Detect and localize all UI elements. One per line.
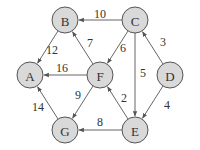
- edge-C-F: 6: [108, 31, 129, 63]
- node-G: G: [52, 117, 78, 143]
- node-label: G: [60, 124, 69, 139]
- edge-weight-label: 4: [164, 98, 170, 112]
- node-E: E: [122, 117, 148, 143]
- node-label: C: [131, 14, 140, 29]
- edge-F-G: 9: [73, 86, 94, 118]
- node-F: F: [87, 62, 113, 88]
- edge-C-B: 10: [79, 7, 122, 21]
- node-B: B: [52, 7, 78, 33]
- node-C: C: [122, 7, 148, 33]
- node-label: F: [96, 69, 103, 84]
- edge-weight-label: 2: [121, 91, 127, 105]
- graph-diagram: 1012765316924814 ABCDEFG: [0, 0, 200, 150]
- edge-weight-label: 3: [160, 35, 166, 49]
- edge-B-A: 12: [38, 31, 59, 63]
- node-label: B: [61, 14, 70, 29]
- edge-arrow: [143, 86, 164, 118]
- edge-weight-label: 14: [32, 100, 44, 114]
- edge-weight-label: 7: [87, 36, 93, 50]
- edge-weight-label: 9: [75, 88, 81, 102]
- edge-F-A: 16: [44, 61, 87, 75]
- edge-E-G: 8: [79, 115, 122, 130]
- edge-weight-label: 5: [140, 66, 146, 80]
- edge-weight-label: 8: [97, 115, 103, 129]
- edge-D-E: 4: [143, 86, 170, 118]
- node-D: D: [157, 62, 183, 88]
- edge-weight-label: 6: [120, 41, 126, 55]
- edge-C-E: 5: [135, 33, 146, 116]
- node-label: E: [131, 124, 139, 139]
- edge-weight-label: 12: [46, 43, 58, 57]
- node-label: D: [165, 69, 174, 84]
- edge-D-C: 3: [143, 32, 166, 64]
- node-A: A: [17, 62, 43, 88]
- edge-F-B: 7: [73, 32, 94, 64]
- edge-E-F: 2: [108, 87, 129, 119]
- edge-G-A: 14: [32, 87, 58, 119]
- edge-weight-label: 16: [56, 61, 68, 75]
- node-label: A: [25, 69, 35, 84]
- edge-weight-label: 10: [94, 7, 106, 21]
